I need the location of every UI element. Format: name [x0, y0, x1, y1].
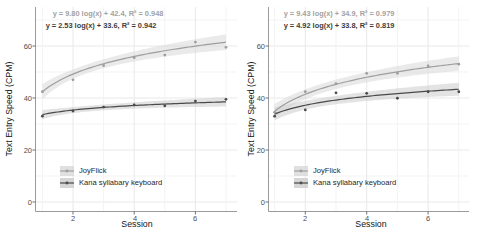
x-tick-label-2: 2	[63, 214, 83, 223]
right-panel: y = 9.43 log(x) + 34.9, R² = 0.979 y = 4…	[242, 0, 485, 243]
legend-item-kana: Kana syllabary keyboard	[60, 177, 162, 188]
y-tick-label-60: 60	[10, 42, 32, 51]
y-axis-title: Text Entry Speed (CPM)	[4, 62, 14, 157]
legend-key-kana-icon	[60, 178, 74, 188]
figure: y = 9.80 log(x) + 42.4, R² = 0.948 y = 2…	[0, 0, 485, 243]
legend: JoyFlick Kana syllabary keyboard	[294, 165, 396, 188]
x-axis-title: Session	[121, 219, 152, 229]
legend-label-joyflick: JoyFlick	[79, 166, 106, 175]
legend-key-joyflick-icon	[60, 166, 74, 176]
x-tick-label-2: 2	[295, 214, 315, 223]
legend-item-joyflick: JoyFlick	[60, 165, 162, 176]
equation-kana-left: y = 2.53 log(x) + 33.6, R² = 0.942	[46, 21, 157, 30]
y-tick-label-60: 60	[243, 42, 265, 51]
x-axis-title: Session	[355, 219, 386, 229]
plot-canvas-right	[242, 0, 485, 243]
legend: JoyFlick Kana syllabary keyboard	[60, 165, 162, 188]
legend-key-joyflick-icon	[294, 166, 308, 176]
x-tick-label-6: 6	[418, 214, 438, 223]
legend-key-kana-icon	[294, 178, 308, 188]
legend-label-kana: Kana syllabary keyboard	[313, 178, 396, 187]
plot-canvas-left	[0, 0, 242, 243]
legend-item-kana: Kana syllabary keyboard	[294, 177, 396, 188]
left-panel: y = 9.80 log(x) + 42.4, R² = 0.948 y = 2…	[0, 0, 242, 243]
equation-joyflick-right: y = 9.43 log(x) + 34.9, R² = 0.979	[284, 9, 395, 18]
y-tick-label-0: 0	[243, 198, 265, 207]
y-tick-label-0: 0	[10, 198, 32, 207]
legend-item-joyflick: JoyFlick	[294, 165, 396, 176]
legend-label-joyflick: JoyFlick	[313, 166, 340, 175]
x-tick-label-6: 6	[185, 214, 205, 223]
legend-label-kana: Kana syllabary keyboard	[79, 178, 162, 187]
equation-kana-right: y = 4.92 log(x) + 33.8, R² = 0.819	[284, 21, 395, 30]
y-axis-title: Text Entry Speed (CPM)	[246, 62, 256, 157]
equation-joyflick-left: y = 9.80 log(x) + 42.4, R² = 0.948	[53, 9, 164, 18]
